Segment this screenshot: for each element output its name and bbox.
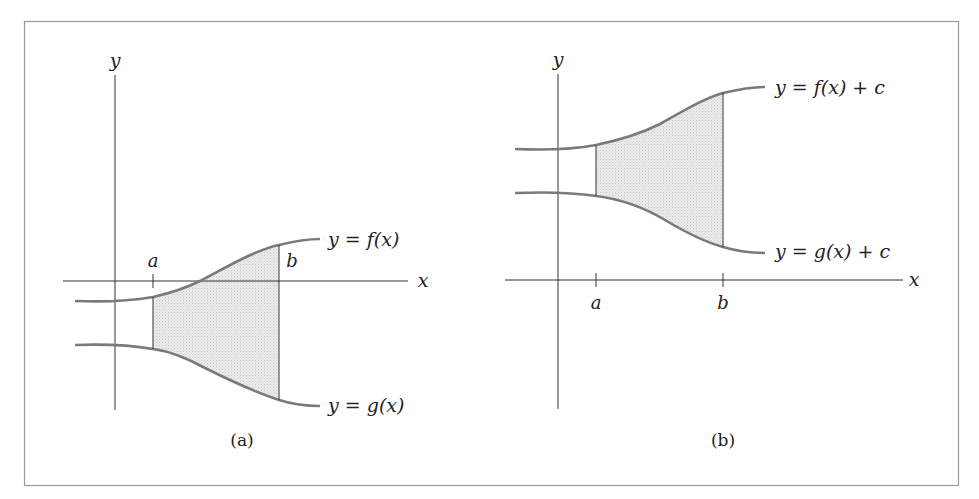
caption-b: (b) (711, 430, 735, 450)
panel-b: y x a b y = f(x) + c y = g(x) + c (b) (505, 48, 920, 450)
shaded-area-b (596, 93, 723, 247)
figure-canvas: y x a b y = f(x) y = g(x) (a) y x a b y … (0, 0, 979, 499)
lower-curve-label-b: y = g(x) + c (774, 240, 890, 262)
x-axis-label-a: x (418, 269, 429, 291)
tick-label-a-a: a (148, 250, 159, 271)
y-axis-label-a: y (109, 49, 121, 71)
caption-a: (a) (230, 430, 253, 450)
upper-curve-label-a: y = f(x) (327, 228, 399, 250)
tick-label-b-b: b (717, 292, 729, 313)
upper-curve-label-b: y = f(x) + c (774, 76, 885, 98)
tick-label-b-a: b (286, 250, 298, 271)
y-axis-label-b: y (552, 48, 564, 70)
x-axis-label-b: x (909, 268, 920, 290)
shaded-area-a (153, 245, 279, 400)
lower-curve-label-a: y = g(x) (327, 394, 404, 416)
panel-a: y x a b y = f(x) y = g(x) (a) (63, 49, 429, 450)
tick-label-a-b: a (591, 292, 602, 313)
